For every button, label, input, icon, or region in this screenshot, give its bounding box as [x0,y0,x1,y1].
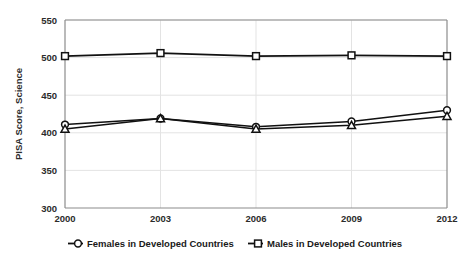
y-tick-label-550: 550 [41,15,57,26]
x-tick-label-2009: 2009 [341,213,362,224]
x-tick-label-2003: 2003 [150,213,171,224]
y-tick-label-500: 500 [41,52,57,63]
y-tick-label-350: 350 [41,165,57,176]
circle-marker-icon [75,240,82,247]
legend-item-females[interactable]: Females in Developed Countries [68,238,234,249]
legend-item-males[interactable]: Males in Developed Countries [248,238,402,249]
y-tick-label-400: 400 [41,127,57,138]
data-point-square-2009[interactable] [348,52,355,59]
y-tick-label-450: 450 [41,90,57,101]
data-point-square-2000[interactable] [62,53,69,60]
chart-canvas: 550 500 450 400 350 300 PISA Score, Scie… [0,0,476,259]
square-marker-icon [255,240,262,247]
pisa-science-line-chart: 550 500 450 400 350 300 PISA Score, Scie… [0,0,476,259]
data-point-square-2006[interactable] [253,53,260,60]
y-axis-title: PISA Score, Science [13,68,24,160]
x-tick-label-2000: 2000 [54,213,75,224]
x-tick-label-2006: 2006 [245,213,266,224]
data-point-square-2012[interactable] [444,53,451,60]
y-tick-label-300: 300 [41,203,57,214]
data-point-square-2003[interactable] [157,50,164,57]
x-tick-label-2012: 2012 [436,213,457,224]
legend-label-females: Females in Developed Countries [87,238,234,249]
legend-label-males: Males in Developed Countries [267,238,402,249]
